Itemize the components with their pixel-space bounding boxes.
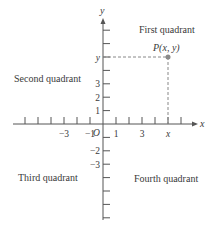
point-guides	[103, 55, 171, 125]
y-axis-label: y	[99, 5, 105, 16]
quadrant-first-label: First quadrant	[139, 24, 195, 35]
coordinate-plane: −3−113x 123y−2−3 x y O P(x, y) First qua…	[0, 0, 215, 233]
x-tick-label: 1	[114, 129, 119, 139]
x-axis-label: x	[199, 118, 205, 129]
y-tick-label: −3	[90, 160, 100, 170]
quadrant-fourth-label: Fourth quadrant	[134, 173, 198, 184]
x-tick-label: x	[165, 129, 171, 139]
x-tick-label: 3	[140, 129, 145, 139]
point-p	[166, 55, 171, 60]
origin-label: O	[93, 128, 100, 138]
x-tick-label: −3	[59, 129, 69, 139]
y-tick-label: 1	[95, 106, 100, 116]
y-tick-label: y	[95, 53, 101, 63]
y-tick-label: 3	[95, 79, 100, 89]
y-axis-arrow-icon	[101, 18, 106, 24]
point-label: P(x, y)	[152, 42, 180, 54]
x-axis-arrow-icon	[192, 122, 198, 127]
quadrant-second-label: Second quadrant	[14, 73, 81, 84]
quadrant-third-label: Third quadrant	[18, 172, 78, 183]
y-tick-label: 2	[95, 93, 100, 103]
y-tick-label: −2	[90, 146, 100, 156]
